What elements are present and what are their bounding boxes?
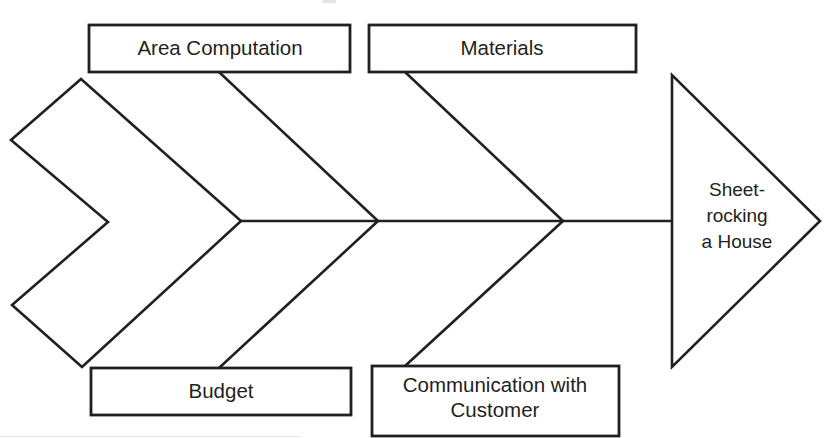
- bone-line-area-computation: [219, 72, 378, 221]
- category-label-materials: Materials: [460, 36, 543, 59]
- effect-label-line-1: Sheet-: [709, 179, 765, 200]
- fish-tail-shape: [11, 79, 241, 367]
- effect-label-line-3: a House: [702, 231, 773, 252]
- category-label-communication-with-customer-line-1: Communication with: [403, 373, 588, 396]
- fishbone-canvas: Sheet- rocking a House Area Computation …: [0, 0, 839, 438]
- bone-line-materials: [405, 72, 563, 221]
- scan-edge-artifact-bottom: [0, 436, 300, 437]
- effect-label-line-2: rocking: [706, 205, 767, 226]
- category-label-communication-with-customer-line-2: Customer: [451, 398, 540, 421]
- category-label-budget: Budget: [189, 379, 254, 402]
- bone-line-budget: [219, 221, 378, 368]
- category-label-area-computation: Area Computation: [137, 36, 302, 59]
- scan-edge-artifact-top: [322, 0, 336, 3]
- bone-line-communication-with-customer: [405, 221, 563, 366]
- fishbone-diagram: Sheet- rocking a House Area Computation …: [0, 0, 839, 438]
